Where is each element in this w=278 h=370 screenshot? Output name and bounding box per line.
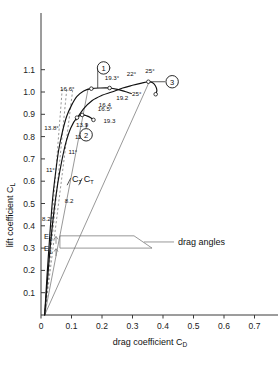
y-tick-label: 1.1 xyxy=(23,65,35,75)
ct-label: CT xyxy=(84,174,95,185)
angle-annotation: 8.2 xyxy=(65,197,74,204)
angle-annotation: 11° xyxy=(46,166,55,173)
data-point xyxy=(92,118,96,122)
angle-annotation: 22° xyxy=(127,70,137,77)
angle-annotation: 19.3° xyxy=(105,74,120,81)
angle-annotation: 16.5° xyxy=(98,105,113,112)
data-point xyxy=(147,80,151,84)
y-tick-label: 0.7 xyxy=(23,154,35,164)
y-tick-label: 0.8 xyxy=(23,132,35,142)
marker-label-1: 1 xyxy=(101,64,105,73)
data-point xyxy=(80,113,84,117)
x-tick-label: 0.7 xyxy=(249,321,261,331)
angle-annotation: 11° xyxy=(68,148,77,155)
drag-angles-label: drag angles xyxy=(178,237,226,247)
angle-annotation: 19.2 xyxy=(116,94,129,101)
x-tick-label: 0.2 xyxy=(96,321,108,331)
data-point xyxy=(154,92,158,96)
x-tick-label: 0.3 xyxy=(127,321,139,331)
y-tick-label: 0.4 xyxy=(23,221,35,231)
drag-angles-bracket xyxy=(60,236,152,248)
data-point xyxy=(108,86,112,90)
marker-label-3: 3 xyxy=(170,78,174,87)
x-tick-label: 0.5 xyxy=(188,321,200,331)
x-tick-label: 0.4 xyxy=(157,321,169,331)
angle-annotation: 8.2° xyxy=(42,215,54,222)
y-tick-label: 1.0 xyxy=(23,87,35,97)
y-axis-title: lift coefficient CL xyxy=(5,182,16,247)
x-tick-label: 0.6 xyxy=(218,321,230,331)
chart-container: 00.10.20.30.40.50.60.70.10.20.30.40.50.6… xyxy=(0,0,278,370)
angle-annotation: 25° xyxy=(132,90,142,97)
angle-annotation: 25° xyxy=(145,67,155,74)
x-tick-label: 0.1 xyxy=(66,321,78,331)
ct-label: CT xyxy=(72,174,83,185)
marker-label-2: 2 xyxy=(84,131,88,140)
y-tick-label: 0.3 xyxy=(23,243,35,253)
angle-annotation: 13.8° xyxy=(44,124,59,131)
x-axis-title: drag coefficient CD xyxy=(113,337,188,348)
data-point xyxy=(90,87,94,91)
angle-annotation: 16.6° xyxy=(60,85,75,92)
data-point xyxy=(75,116,79,120)
eps2-label: E2 xyxy=(44,232,52,243)
y-tick-label: 0.2 xyxy=(23,265,35,275)
y-tick-label: 0.9 xyxy=(23,109,35,119)
y-tick-label: 0.6 xyxy=(23,176,35,186)
y-tick-label: 0.5 xyxy=(23,199,35,209)
x-tick-label: 0 xyxy=(39,321,44,331)
lift-drag-polar-chart: 00.10.20.30.40.50.60.70.10.20.30.40.50.6… xyxy=(0,0,278,370)
angle-annotation: 19.3 xyxy=(103,117,116,124)
y-tick-label: 0.1 xyxy=(23,288,35,298)
